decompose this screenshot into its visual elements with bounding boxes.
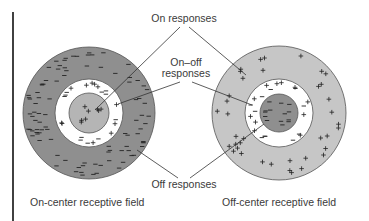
on-center-disc [69,93,109,133]
off-responses-label: Off responses [151,178,216,190]
on-responses-label: On responses [151,12,216,24]
on-center-caption: On-center receptive field [30,196,145,208]
off-center-caption: Off-center receptive field [222,196,336,208]
leader-off-left [137,150,178,178]
receptive-field-diagram: On responses On–off responses Off respon… [0,0,369,221]
off-center-disc [260,94,298,132]
on-off-label-line2: responses [162,67,210,79]
on-center-field [23,47,155,179]
off-center-field [212,46,346,180]
